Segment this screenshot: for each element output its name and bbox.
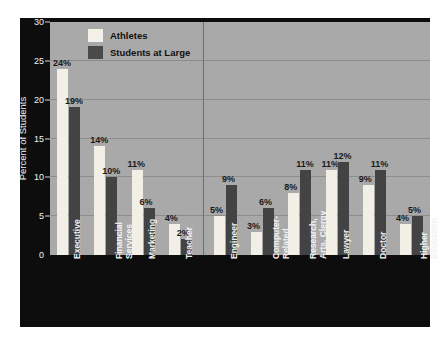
category-label-4: Engineer (230, 223, 240, 259)
category-label-2: Marketing (148, 219, 158, 259)
bar-athletes-5 (251, 232, 262, 255)
value-label-students-at-large-5: 6% (259, 197, 272, 207)
value-label-athletes-1: 14% (90, 135, 108, 145)
y-tick-label-30: 30 (34, 17, 44, 27)
legend-item-students-at-large: Students at Large (88, 46, 190, 59)
legend-swatch-athletes (88, 29, 103, 42)
bar-chart-figure: 051015202530 Percent of Students 24%19%1… (0, 0, 446, 340)
value-label-students-at-large-2: 6% (140, 197, 153, 207)
group-divider (203, 22, 204, 255)
value-label-athletes-4: 5% (210, 205, 223, 215)
value-label-students-at-large-7: 12% (334, 151, 352, 161)
gridline-20 (50, 99, 430, 100)
y-tick-label-0: 0 (39, 250, 44, 260)
legend-item-athletes: Athletes (88, 29, 190, 42)
y-tick-label-10: 10 (34, 172, 44, 182)
bar-athletes-8 (363, 185, 374, 255)
bar-athletes-9 (400, 224, 411, 255)
y-tick-label-5: 5 (39, 211, 44, 221)
legend-label-athletes: Athletes (110, 30, 147, 41)
value-label-athletes-0: 24% (53, 58, 71, 68)
category-label-7: Lawyer (342, 230, 352, 259)
category-label-8: Doctor (379, 232, 389, 259)
category-label-9: HigherEducation (420, 218, 439, 259)
category-label-6: Research,Arts, Clergy (309, 211, 328, 259)
value-label-students-at-large-0: 19% (65, 96, 83, 106)
value-label-students-at-large-4: 9% (222, 174, 235, 184)
category-label-0: Executive (73, 219, 83, 259)
category-label-5: Computer-Related (272, 216, 291, 259)
bar-athletes-4 (214, 216, 225, 255)
y-axis-title: Percent of Students (16, 22, 30, 255)
category-label-3: Teacher (185, 227, 195, 259)
value-label-students-at-large-1: 10% (102, 166, 120, 176)
bar-athletes-1 (94, 146, 105, 255)
chart-legend: Athletes Students at Large (88, 29, 190, 63)
value-label-athletes-6: 8% (284, 182, 297, 192)
value-label-athletes-2: 11% (128, 159, 146, 169)
y-tick-label-20: 20 (34, 95, 44, 105)
legend-swatch-students-at-large (88, 46, 103, 59)
value-label-students-at-large-8: 11% (371, 159, 389, 169)
category-label-1: FinancialServices (115, 222, 134, 259)
value-label-athletes-3: 4% (165, 213, 178, 223)
value-label-students-at-large-9: 5% (408, 205, 421, 215)
y-tick-label-25: 25 (34, 56, 44, 66)
value-label-athletes-5: 3% (247, 221, 260, 231)
legend-label-students-at-large: Students at Large (110, 47, 190, 58)
value-label-athletes-8: 9% (359, 174, 372, 184)
y-tick-label-15: 15 (34, 134, 44, 144)
value-label-students-at-large-6: 11% (296, 159, 314, 169)
